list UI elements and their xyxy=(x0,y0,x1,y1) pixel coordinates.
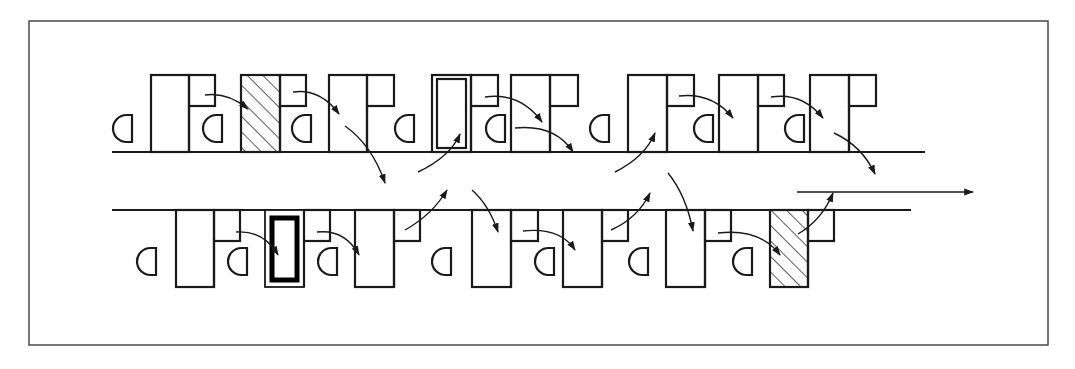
hatched-block xyxy=(770,210,808,287)
station-block xyxy=(810,75,849,152)
station-block xyxy=(628,75,667,152)
station-unit xyxy=(511,75,609,152)
station-unit xyxy=(355,210,451,287)
station-block xyxy=(511,75,550,152)
hatched-block xyxy=(241,75,280,152)
d-shaped-icon xyxy=(228,248,247,275)
station-unit xyxy=(137,210,240,287)
small-block xyxy=(705,210,731,241)
station-unit xyxy=(228,248,247,275)
station-unit xyxy=(265,210,337,287)
station-unit xyxy=(719,75,804,152)
station-block xyxy=(176,210,214,287)
outer-frame xyxy=(29,21,1048,345)
flow-arrow-icon xyxy=(515,128,573,153)
small-block xyxy=(667,75,694,106)
station-block xyxy=(666,210,705,287)
small-block xyxy=(214,210,240,241)
d-shaped-icon xyxy=(395,115,414,142)
small-block xyxy=(471,75,498,106)
small-block xyxy=(758,75,784,106)
flow-arrow-icon xyxy=(345,126,385,183)
d-shaped-icon xyxy=(292,115,311,142)
small-block xyxy=(280,75,306,106)
station-unit xyxy=(666,210,752,287)
flow-arrow-icon xyxy=(611,193,650,230)
d-shaped-icon xyxy=(535,248,554,275)
d-shaped-icon xyxy=(694,115,713,142)
d-shaped-icon xyxy=(785,115,804,142)
track-lines xyxy=(112,152,925,210)
small-block xyxy=(189,75,215,106)
station-block xyxy=(355,210,394,287)
d-shaped-icon xyxy=(432,248,451,275)
station-block xyxy=(719,75,758,152)
flow-arrows xyxy=(205,91,973,255)
station-unit xyxy=(203,115,222,142)
flow-arrow-icon xyxy=(668,173,693,231)
station-unit xyxy=(329,75,414,152)
small-block xyxy=(394,210,420,241)
bottom-row-units xyxy=(137,210,834,287)
d-shaped-icon xyxy=(629,248,648,275)
flow-arrow-icon xyxy=(834,133,875,174)
station-unit xyxy=(628,75,713,152)
station-unit xyxy=(432,75,505,152)
flow-arrow-icon xyxy=(485,96,542,122)
small-block xyxy=(367,75,394,106)
d-shaped-icon xyxy=(318,248,337,275)
small-block xyxy=(511,210,538,241)
top-row-units xyxy=(113,75,876,152)
station-block xyxy=(563,210,602,287)
d-shaped-icon xyxy=(486,115,505,142)
small-block xyxy=(304,210,330,241)
d-shaped-icon xyxy=(203,115,222,142)
small-block xyxy=(550,75,578,106)
diagram-canvas xyxy=(0,0,1075,369)
station-unit xyxy=(563,210,648,287)
d-shaped-icon xyxy=(137,248,156,275)
station-unit xyxy=(770,210,834,287)
station-block xyxy=(472,210,511,287)
small-block xyxy=(849,75,876,106)
d-shaped-icon xyxy=(590,115,609,142)
station-block xyxy=(151,75,189,152)
station-unit xyxy=(472,210,554,287)
d-shaped-icon xyxy=(733,248,752,275)
conveyor-flow-diagram xyxy=(0,0,1075,369)
small-block xyxy=(602,210,628,241)
station-unit xyxy=(241,75,311,152)
flow-arrow-icon xyxy=(293,91,339,114)
station-unit xyxy=(113,75,215,152)
d-shaped-icon xyxy=(113,115,132,142)
